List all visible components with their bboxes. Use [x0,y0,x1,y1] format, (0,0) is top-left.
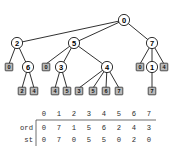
leaf-node: 5 [63,87,71,95]
leaf-label: 0 [44,64,47,70]
table-row: st 0 7 0 5 5 0 2 0 [24,136,151,144]
tree-node: 3 [55,61,66,72]
leaf-node: 5 [89,87,97,95]
table-row: ord 0 7 1 5 6 2 4 3 [20,124,151,132]
column-header: 5 [117,110,121,118]
table-cell: 3 [147,124,151,132]
leaf-label: 6 [104,88,107,94]
tree-node-root: 0 [118,14,129,25]
table-cell: 5 [87,124,91,132]
tree-node: 4 [101,61,112,72]
table-cell: 6 [102,124,106,132]
tree-edges [9,20,164,88]
tree-node-label: 1 [150,63,154,72]
leaf-node: 4 [30,87,38,95]
table-cell: 1 [72,124,76,132]
table-cell: 0 [147,136,151,144]
tree-internal-nodes: 0 2 5 7 6 3 4 1 [11,14,157,72]
column-header: 0 [42,110,46,118]
table-cell: 5 [87,136,91,144]
leaf-label: 0 [7,64,10,70]
table-cell: 4 [132,124,136,132]
tree-node-label: 6 [26,63,30,72]
row-label: ord [20,124,33,132]
leaf-node: 4 [51,87,59,95]
table-column-headers: 0 1 2 3 4 5 6 7 [42,110,151,118]
tree-node-label: 7 [150,39,154,48]
edge-n5-n4 [74,43,107,67]
tree-node: 5 [68,37,79,48]
tree-node-label: 3 [59,63,63,72]
tree-node: 6 [22,61,33,72]
tree-node-label: 5 [72,39,76,48]
leaf-label: 5 [91,88,94,94]
column-header: 1 [57,110,61,118]
leaf-node: 2 [18,87,26,95]
column-header: 4 [102,110,106,118]
table-cell: 2 [132,136,136,144]
table-cell: 7 [57,136,61,144]
column-header: 7 [147,110,151,118]
tree-node-label: 2 [15,39,19,48]
leaf-node: 0 [136,63,144,71]
leaf-node: 3 [75,87,83,95]
table-cell: 0 [72,136,76,144]
tree-node-label: 0 [122,16,126,25]
tree-node: 7 [146,37,157,48]
leaf-label: 7 [117,88,120,94]
leaf-node: 0 [5,63,13,71]
column-header: 3 [87,110,91,118]
leaf-label: 5 [65,88,68,94]
leaf-node: 4 [160,63,168,71]
tree-node: 2 [11,37,22,48]
table-cell: 7 [57,124,61,132]
tree-diagram: 0 2 4 0 4 5 3 5 [0,0,176,108]
table-cell: 5 [102,136,106,144]
tree-node: 1 [146,61,157,72]
table-cell: 0 [42,136,46,144]
leaf-label: 2 [20,88,23,94]
leaf-node: 7 [148,87,156,95]
leaf-node: 7 [115,87,123,95]
leaf-label: 3 [77,88,80,94]
leaf-node: 0 [42,63,50,71]
table-cell: 0 [42,124,46,132]
leaf-label: 0 [138,64,141,70]
row-label: st [24,136,33,144]
edge-n0-n5 [74,20,124,43]
table-cell: 2 [117,124,121,132]
column-header: 6 [132,110,136,118]
table-cell: 0 [117,136,121,144]
data-table: 0 1 2 3 4 5 6 7 ord 0 7 1 5 6 2 4 3 st 0… [0,106,176,162]
column-header: 2 [72,110,76,118]
leaf-node: 6 [102,87,110,95]
leaf-label: 7 [150,88,153,94]
